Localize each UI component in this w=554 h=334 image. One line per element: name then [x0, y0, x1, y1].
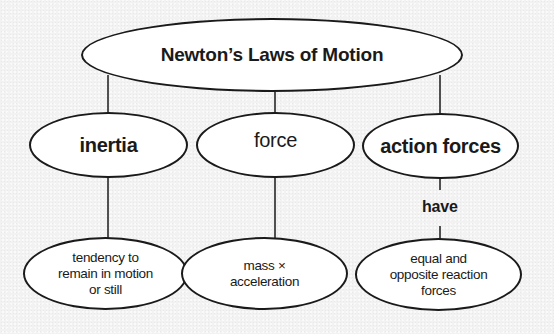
branch-label-force: force	[254, 129, 297, 152]
leaf-label-force: mass × acceleration	[230, 258, 299, 290]
root-label: Newton’s Laws of Motion	[161, 44, 384, 66]
leaf-node-action-forces: equal and opposite reaction forces	[355, 238, 522, 311]
leaf-label-action-forces: equal and opposite reaction forces	[390, 251, 488, 299]
branch-node-inertia: inertia	[29, 112, 188, 178]
branch-label-inertia: inertia	[80, 134, 138, 157]
link-label-have: have	[422, 198, 458, 216]
leaf-node-force: mass × acceleration	[181, 237, 348, 310]
leaf-node-inertia: tendency to remain in motion or still	[23, 237, 188, 310]
leaf-label-inertia: tendency to remain in motion or still	[58, 250, 153, 298]
root-node: Newton’s Laws of Motion	[81, 18, 463, 92]
branch-node-action-forces: action forces	[362, 113, 519, 179]
branch-node-force: force	[196, 112, 355, 178]
branch-label-action-forces: action forces	[380, 135, 501, 158]
concept-map: Newton’s Laws of Motion inertia force ac…	[0, 0, 554, 334]
